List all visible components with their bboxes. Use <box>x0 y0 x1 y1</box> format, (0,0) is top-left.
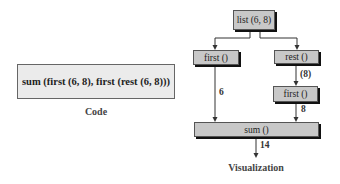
node-sum-label: sum () <box>244 125 269 135</box>
code-expression-box: sum (first (6, 8), first (rest (6, 8))) <box>17 64 175 99</box>
edge-list-to-first <box>215 30 250 47</box>
visualization-caption: Visualization <box>216 162 296 173</box>
node-first-left: first () <box>193 50 239 65</box>
node-first-right: first () <box>273 86 318 102</box>
node-rest: rest () <box>274 50 319 64</box>
node-rest-label: rest () <box>285 52 307 62</box>
edge-list-to-rest <box>260 30 297 47</box>
edge-label-rest-to-first: (8) <box>300 69 311 79</box>
code-caption: Code <box>17 106 175 117</box>
edge-label-first-right-to-sum: 8 <box>301 104 306 114</box>
node-list-label: list (6, 8) <box>237 15 272 25</box>
edge-label-sum-output: 14 <box>260 140 270 150</box>
node-first-left-label: first () <box>204 53 228 63</box>
node-sum: sum () <box>194 122 319 137</box>
node-list: list (6, 8) <box>233 10 275 30</box>
node-first-right-label: first () <box>283 89 307 99</box>
code-expression: sum (first (6, 8), first (rest (6, 8))) <box>22 76 170 87</box>
edge-label-first-to-sum: 6 <box>219 87 224 97</box>
